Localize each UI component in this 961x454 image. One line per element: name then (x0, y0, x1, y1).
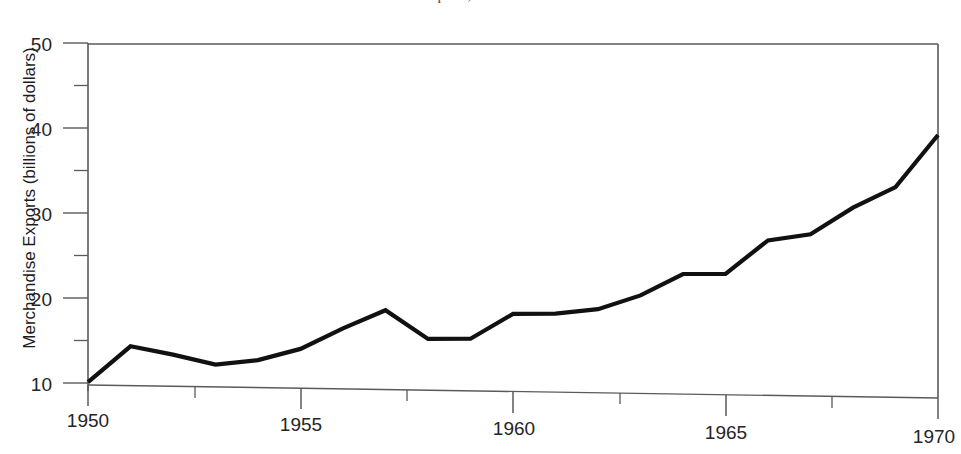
plot-frame (88, 43, 938, 398)
chart-svg (0, 0, 961, 454)
exports-line-series (88, 135, 938, 382)
y-major-ticks (63, 43, 88, 383)
chart-figure: Exports, 1950-1970 Merchandise Exports (… (0, 0, 961, 454)
x-major-ticks (88, 385, 938, 419)
